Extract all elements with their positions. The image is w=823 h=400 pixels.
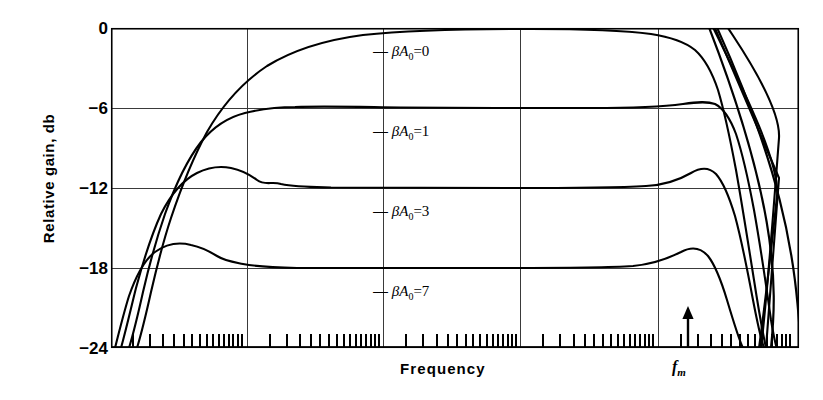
plot-area: — βA0=0 — βA0=1 — βA0=3 — βA0=7 [111, 28, 799, 348]
curve-label-beta-a0-1: — βA0=1 [373, 122, 429, 142]
y-tick-24: −24 [62, 340, 108, 357]
resonance-spike-falling-edge [689, 0, 801, 348]
resonance-peak-left-branch [689, 0, 777, 348]
y-tick-12: −12 [62, 180, 108, 197]
curve-label-beta-a0-0: — βA0=0 [373, 42, 429, 62]
curve-label-beta-a0-7: — βA0=7 [373, 282, 429, 302]
x-axis-title: Frequency [400, 360, 486, 377]
y-tick-6: −6 [62, 100, 108, 117]
chart-figure: Relative gain, db 0 −6 −12 −18 −24 [0, 0, 823, 400]
fm-arrow-icon [679, 306, 697, 348]
fm-label: fm [672, 358, 686, 378]
y-tick-0: 0 [62, 20, 108, 37]
curve-label-beta-a0-3: — βA0=3 [373, 202, 429, 222]
y-axis-tick-labels: 0 −6 −12 −18 −24 [52, 0, 108, 400]
y-tick-18: −18 [62, 260, 108, 277]
plot-svg [111, 28, 799, 348]
